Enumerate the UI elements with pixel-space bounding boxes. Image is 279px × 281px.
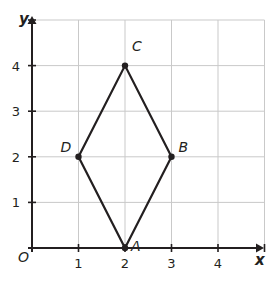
y-tick-label: 4 [8,60,24,73]
origin-label: O [18,250,29,264]
x-tick-label: 3 [164,257,180,270]
y-axis-label: y [19,12,29,27]
vertex-point-c [122,62,128,68]
vertex-label-d: D [61,140,72,154]
vertex-point-b [168,154,174,160]
y-tick-label: 2 [8,151,24,164]
vertex-label-c: C [132,39,142,53]
vertex-label-a: A [131,239,141,253]
y-tick-label: 3 [8,105,24,118]
vertex-point-d [75,154,81,160]
coordinate-plane-figure: y x O 12341234 ABCD [0,0,279,281]
axis-lines [28,16,265,253]
axis-ticks [28,20,265,252]
x-tick-label: 2 [117,257,133,270]
y-tick-label: 1 [8,196,24,209]
vertex-label-b: B [179,140,189,154]
x-axis-label: x [255,253,265,268]
x-tick-label: 1 [71,257,87,270]
x-tick-label: 4 [210,257,226,270]
grid-lines [32,20,265,248]
vertex-point-a [122,245,128,251]
